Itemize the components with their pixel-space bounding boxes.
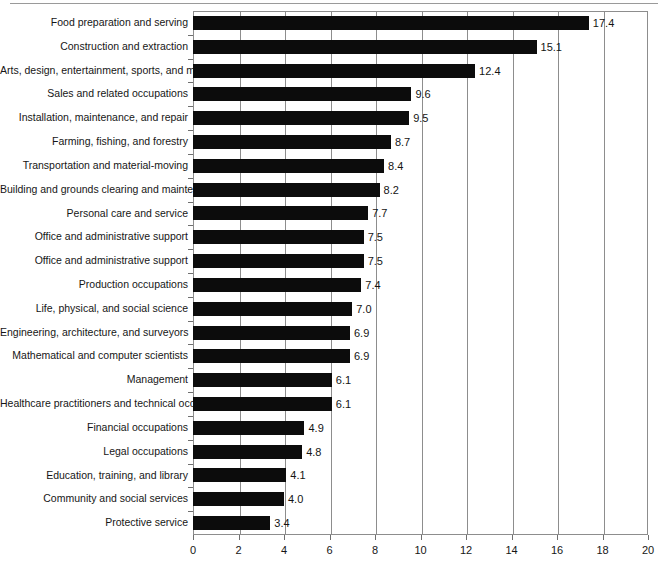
bar-row: 8.4 bbox=[193, 154, 648, 178]
bar-value-label: 4.8 bbox=[306, 443, 321, 461]
y-axis-tick bbox=[188, 416, 193, 417]
y-axis-tick bbox=[188, 368, 193, 369]
bar bbox=[193, 40, 537, 54]
bar-row: 9.6 bbox=[193, 82, 648, 106]
category-label: Office and administrative support bbox=[0, 249, 188, 273]
bar bbox=[193, 87, 411, 101]
bar bbox=[193, 492, 284, 506]
y-axis-tick bbox=[188, 297, 193, 298]
y-axis-tick bbox=[188, 487, 193, 488]
bar-row: 7.0 bbox=[193, 297, 648, 321]
bar-row: 6.9 bbox=[193, 344, 648, 368]
bar-value-label: 7.0 bbox=[356, 300, 371, 318]
y-axis-tick bbox=[188, 511, 193, 512]
category-label: Building and grounds clearing and mainte… bbox=[0, 178, 188, 202]
y-axis-tick bbox=[188, 464, 193, 465]
y-axis-tick bbox=[188, 249, 193, 250]
x-axis-tick-label: 14 bbox=[497, 543, 527, 557]
x-axis-tick-label: 12 bbox=[451, 543, 481, 557]
y-axis-tick bbox=[188, 273, 193, 274]
bar bbox=[193, 278, 361, 292]
chart-figure: Food preparation and servingConstruction… bbox=[0, 0, 665, 567]
y-axis-tick bbox=[188, 35, 193, 36]
bar bbox=[193, 206, 368, 220]
bar-value-label: 6.9 bbox=[354, 347, 369, 365]
bar-row: 3.4 bbox=[193, 511, 648, 535]
bar-value-label: 15.1 bbox=[541, 38, 562, 56]
bar bbox=[193, 445, 302, 459]
x-axis-tick-18 bbox=[603, 535, 604, 540]
bar bbox=[193, 64, 475, 78]
bar bbox=[193, 397, 332, 411]
x-axis-tick-2 bbox=[239, 535, 240, 540]
x-axis-tick-12 bbox=[466, 535, 467, 540]
bar-row: 4.1 bbox=[193, 464, 648, 488]
y-axis-tick bbox=[188, 82, 193, 83]
bar-row: 15.1 bbox=[193, 35, 648, 59]
y-axis-tick bbox=[188, 321, 193, 322]
bar bbox=[193, 373, 332, 387]
bar-series: 17.415.112.49.69.58.78.48.27.77.57.57.47… bbox=[193, 11, 648, 535]
category-label: Engineering, architecture, and surveyors bbox=[0, 321, 188, 345]
category-label: Management bbox=[0, 368, 188, 392]
bar-value-label: 6.1 bbox=[336, 395, 351, 413]
y-axis-tick bbox=[188, 202, 193, 203]
category-label: Protective service bbox=[0, 511, 188, 535]
bar bbox=[193, 183, 380, 197]
bar-value-label: 7.5 bbox=[368, 228, 383, 246]
x-axis-tick-14 bbox=[512, 535, 513, 540]
category-label: Healthcare practitioners and technical o… bbox=[0, 392, 188, 416]
bar-row: 4.8 bbox=[193, 440, 648, 464]
x-axis-tick-4 bbox=[284, 535, 285, 540]
y-axis-tick bbox=[188, 225, 193, 226]
bar-row: 7.4 bbox=[193, 273, 648, 297]
bar-row: 7.5 bbox=[193, 249, 648, 273]
bar-value-label: 6.1 bbox=[336, 371, 351, 389]
bar bbox=[193, 302, 352, 316]
bar-row: 12.4 bbox=[193, 59, 648, 83]
bar-row: 8.7 bbox=[193, 130, 648, 154]
category-label: Installation, maintenance, and repair bbox=[0, 106, 188, 130]
y-axis-tick bbox=[188, 344, 193, 345]
x-axis-tick-label: 8 bbox=[360, 543, 390, 557]
y-axis-tick bbox=[188, 440, 193, 441]
x-axis-tick-label: 10 bbox=[406, 543, 436, 557]
y-axis-tick bbox=[188, 130, 193, 131]
bar bbox=[193, 349, 350, 363]
bar-row: 9.5 bbox=[193, 106, 648, 130]
bar-value-label: 9.6 bbox=[415, 85, 430, 103]
x-axis-tick-6 bbox=[330, 535, 331, 540]
x-axis-tick-label: 0 bbox=[178, 543, 208, 557]
category-axis-labels: Food preparation and servingConstruction… bbox=[0, 11, 188, 535]
category-label: Sales and related occupations bbox=[0, 82, 188, 106]
category-label: Farming, fishing, and forestry bbox=[0, 130, 188, 154]
bar bbox=[193, 135, 391, 149]
bar-value-label: 8.7 bbox=[395, 133, 410, 151]
y-axis-tick bbox=[188, 106, 193, 107]
bar-row: 6.1 bbox=[193, 368, 648, 392]
x-axis-tick-20 bbox=[648, 535, 649, 540]
bar bbox=[193, 326, 350, 340]
bar bbox=[193, 468, 286, 482]
category-label: Arts, design, entertainment, sports, and… bbox=[0, 59, 188, 83]
category-label: Office and administrative support bbox=[0, 225, 188, 249]
bar-value-label: 8.4 bbox=[388, 157, 403, 175]
bar-value-label: 7.7 bbox=[372, 204, 387, 222]
bar-row: 6.1 bbox=[193, 392, 648, 416]
x-axis-tick-label: 16 bbox=[542, 543, 572, 557]
bar-row: 4.0 bbox=[193, 487, 648, 511]
bar bbox=[193, 516, 270, 530]
x-axis-tick-16 bbox=[557, 535, 558, 540]
x-axis-tick-label: 20 bbox=[633, 543, 663, 557]
bar-value-label: 17.4 bbox=[593, 14, 614, 32]
bar-row: 7.7 bbox=[193, 202, 648, 226]
y-axis-tick bbox=[188, 59, 193, 60]
x-axis-tick-10 bbox=[421, 535, 422, 540]
bar bbox=[193, 159, 384, 173]
bar-value-label: 12.4 bbox=[479, 62, 500, 80]
y-axis-tick bbox=[188, 178, 193, 179]
bar-value-label: 6.9 bbox=[354, 324, 369, 342]
category-label: Personal care and service bbox=[0, 202, 188, 226]
category-label: Community and social services bbox=[0, 487, 188, 511]
bar bbox=[193, 254, 364, 268]
